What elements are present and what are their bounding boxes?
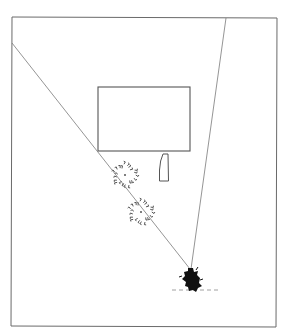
- frame-border: [11, 17, 277, 327]
- plan-diagram: [0, 0, 291, 331]
- tree-trunk-dot: [124, 174, 126, 176]
- tree-trunk-dot: [140, 211, 142, 213]
